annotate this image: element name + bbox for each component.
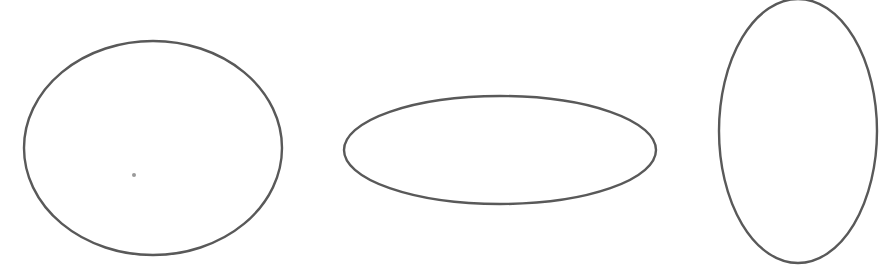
center-dot: [132, 173, 136, 177]
ellipse-left: [24, 41, 282, 255]
diagram-canvas: [0, 0, 895, 277]
ellipse-center: [344, 96, 656, 204]
ellipse-right: [719, 0, 877, 263]
